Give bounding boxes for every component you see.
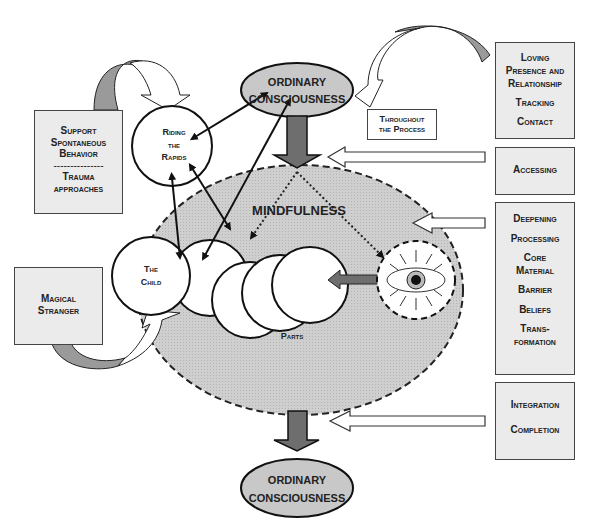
throughout-line1: Throughout — [368, 114, 436, 124]
top-consciousness-line1: ORDINARY — [268, 76, 327, 88]
magical-line1: Magical — [15, 293, 102, 305]
child-label-line2: Child — [141, 277, 162, 287]
deepening-box: Deepening Processing Core Material Barri… — [495, 202, 575, 375]
deepening-item-1: Processing — [496, 233, 574, 246]
support-line2: Spontaneous — [35, 137, 122, 149]
loving-item-4: Contact — [496, 115, 574, 128]
support-box: Support Spontaneous Behavior -----------… — [34, 110, 123, 214]
deepening-item-3: Material — [496, 265, 574, 278]
arrow-accessing — [328, 147, 485, 167]
loving-presence-box: Loving Presence and Relationship Trackin… — [495, 42, 575, 139]
support-line5: approaches — [35, 183, 122, 195]
loving-item-2: Relationship — [496, 77, 574, 90]
deepening-item-5: Beliefs — [496, 304, 574, 317]
accessing-box: Accessing — [495, 147, 575, 195]
child-label-line1: The — [144, 264, 158, 274]
loving-item-1: Presence and — [496, 64, 574, 77]
curved-arrow-loving — [355, 26, 490, 107]
magical-line2: Stranger — [15, 305, 102, 317]
riding-label-line1: Riding — [162, 127, 185, 137]
integration-item-0: Integration — [496, 399, 574, 411]
deepening-item-6: Trans- — [496, 323, 574, 336]
loving-item-0: Loving — [496, 51, 574, 64]
magical-stranger-box: Magical Stranger — [14, 267, 103, 345]
deepening-item-7: formation — [496, 336, 574, 349]
deepening-item-4: Barrier — [496, 284, 574, 297]
arrow-integration — [330, 411, 485, 431]
eye-icon — [377, 241, 455, 319]
support-divider: --------------- — [35, 160, 122, 172]
bottom-consciousness-ellipse — [241, 459, 353, 517]
support-line4: Trauma — [35, 171, 122, 183]
support-line1: Support — [35, 125, 122, 137]
integration-item-1: Completion — [496, 424, 574, 436]
integration-box: Integration Completion — [495, 382, 575, 460]
riding-label-line2: the — [168, 140, 180, 150]
mindfulness-label: MINDFULNESS — [252, 203, 346, 218]
loving-item-3: Tracking — [496, 96, 574, 109]
accessing-item-0: Accessing — [496, 164, 574, 176]
throughout-box: Throughout the Process — [367, 109, 437, 140]
bottom-consciousness-line2: CONSCIOUSNESS — [249, 492, 346, 504]
parts-label: Parts — [281, 331, 303, 341]
bottom-consciousness-line1: ORDINARY — [268, 474, 327, 486]
deepening-item-2: Core — [496, 252, 574, 265]
deepening-item-0: Deepening — [496, 213, 574, 226]
throughout-line2: the Process — [368, 124, 436, 134]
riding-label-line3: Rapids — [162, 152, 187, 162]
down-arrow-top — [274, 116, 320, 168]
top-consciousness-ellipse — [241, 63, 353, 117]
down-arrow-bottom — [274, 411, 319, 451]
support-line3: Behavior — [35, 148, 122, 160]
top-consciousness-line2: CONSCIOUSNESS — [249, 93, 346, 105]
curved-arrow-support — [94, 60, 190, 110]
